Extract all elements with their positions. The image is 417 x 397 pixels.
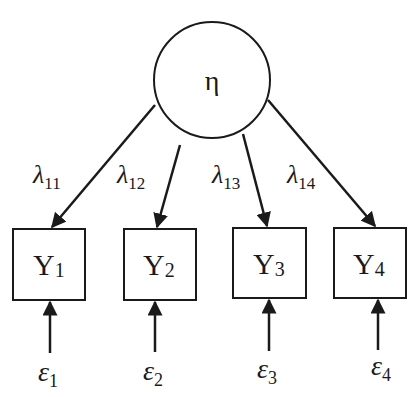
epsilon-1-label: ε1 bbox=[38, 356, 58, 391]
eta-label: η bbox=[205, 65, 220, 96]
sem-diagram: η λ11 λ12 λ13 λ14 Y1 Y2 Y3 Y4 ε1 bbox=[0, 0, 417, 397]
loading-arrow-14 bbox=[268, 100, 375, 226]
error-labels: ε1 ε2 ε3 ε4 bbox=[38, 350, 391, 391]
indicator-y2: Y2 bbox=[124, 229, 196, 300]
lambda-14-label: λ14 bbox=[286, 160, 316, 193]
loading-arrow-12 bbox=[157, 145, 180, 227]
indicator-y3: Y3 bbox=[233, 228, 306, 298]
error-arrows bbox=[50, 300, 378, 353]
loading-arrow-13 bbox=[243, 134, 267, 226]
latent-factor-eta: η bbox=[154, 22, 270, 138]
loading-arrow-11 bbox=[52, 105, 155, 227]
indicator-y4: Y4 bbox=[334, 228, 406, 298]
lambda-13-label: λ13 bbox=[211, 160, 240, 193]
epsilon-2-label: ε2 bbox=[143, 355, 163, 390]
epsilon-3-label: ε3 bbox=[257, 353, 277, 388]
epsilon-4-label: ε4 bbox=[371, 350, 391, 385]
indicator-y1: Y1 bbox=[13, 229, 85, 300]
lambda-12-label: λ12 bbox=[116, 160, 145, 193]
lambda-11-label: λ11 bbox=[32, 160, 61, 193]
